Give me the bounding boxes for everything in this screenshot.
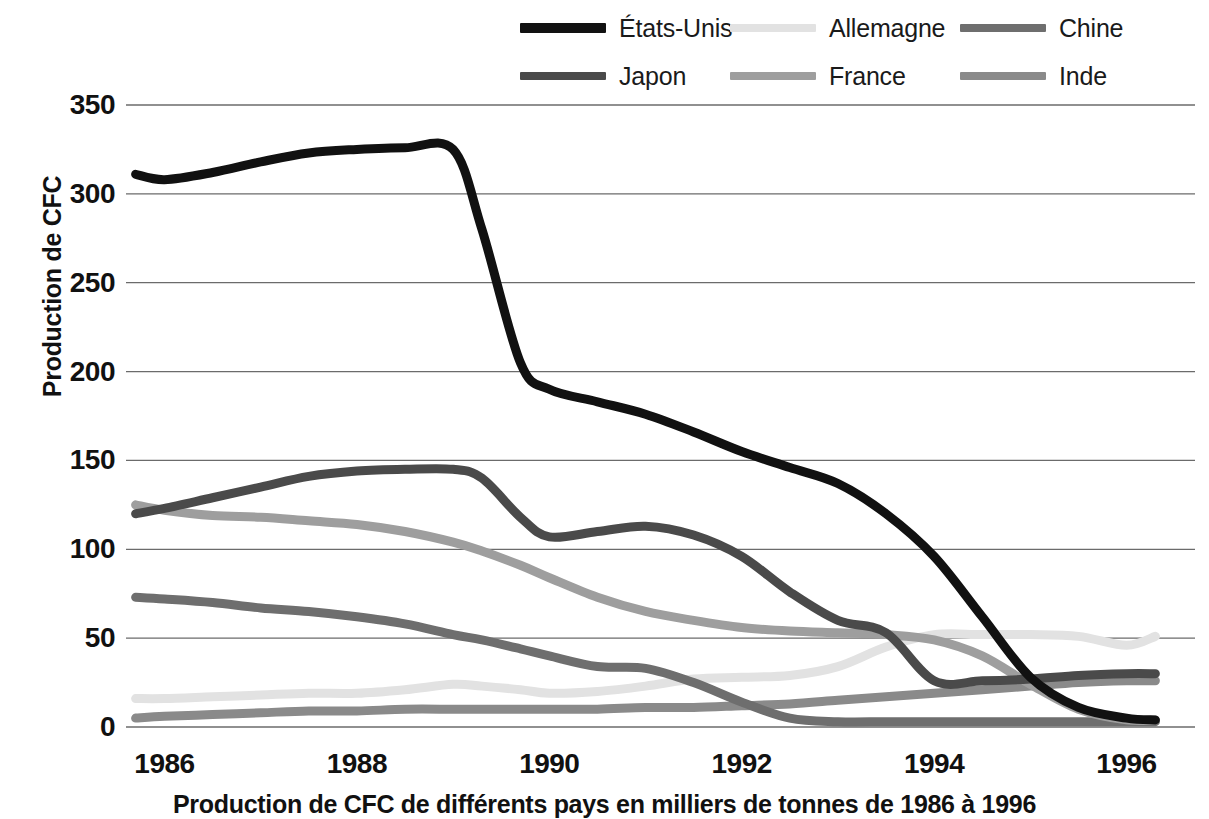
series-line [136,469,1156,685]
chart-caption: Production de CFC de différents pays en … [0,790,1209,819]
